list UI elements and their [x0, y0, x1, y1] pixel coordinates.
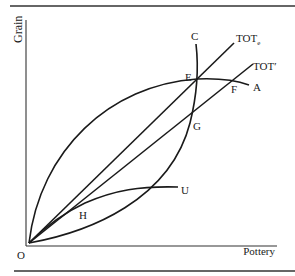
tot-e-subscript: e [257, 39, 260, 47]
trade-diagram: Grain Pottery O C A U TOTe TOT′ E F G H [0, 0, 295, 276]
point-f-label: F [231, 83, 237, 95]
tot-e-main: TOT [236, 32, 257, 44]
curve-c-label: C [191, 30, 198, 42]
point-g-label: G [193, 120, 201, 132]
x-axis-label: Pottery [243, 245, 275, 257]
tot-e-label: TOTe [236, 32, 260, 47]
origin-label: O [17, 249, 25, 261]
curve-a-label: A [253, 81, 261, 93]
curve-a [29, 79, 249, 243]
curve-u-label: U [181, 184, 189, 196]
line-tot-e [29, 43, 234, 243]
tot-prime-label: TOT′ [253, 60, 277, 72]
y-axis-label: Grain [11, 16, 25, 43]
point-e-label: E [185, 71, 192, 83]
point-h-label: H [79, 209, 87, 221]
diagram-canvas: Grain Pottery O C A U TOTe TOT′ E F G H [0, 0, 295, 276]
curve-c [29, 44, 197, 243]
curve-u [29, 187, 178, 243]
